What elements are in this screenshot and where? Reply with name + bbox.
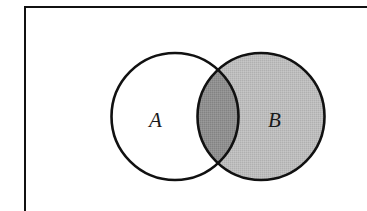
set-a-label: A [147,108,162,132]
venn-diagram: A B [0,0,367,211]
set-b-label: B [268,108,281,132]
